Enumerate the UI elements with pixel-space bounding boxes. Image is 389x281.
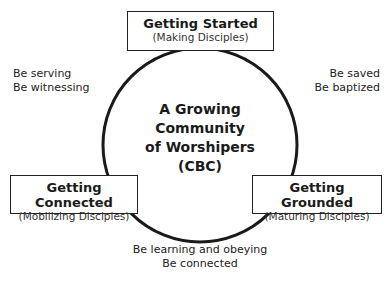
stage-title: Getting Grounded (253, 180, 381, 210)
center-line-1: A Growing Community (120, 100, 280, 138)
stage-title: Getting Connected (11, 180, 137, 210)
stage-title: Getting Started (128, 16, 273, 31)
center-line-3: (CBC) (120, 157, 280, 176)
note-bottom: Be learning and obeying Be connected (120, 243, 280, 271)
note-line: Be baptized (315, 81, 380, 95)
stage-getting-grounded: Getting Grounded (Maturing Disciples) (252, 175, 382, 214)
note-line: Be connected (120, 257, 280, 271)
note-line: Be serving (13, 67, 89, 81)
stage-subtitle: (Mobilizing Disciples) (11, 210, 137, 223)
stage-getting-started: Getting Started (Making Disciples) (127, 11, 274, 51)
note-top-right: Be saved Be baptized (315, 67, 380, 95)
stage-getting-connected: Getting Connected (Mobilizing Disciples) (10, 175, 138, 214)
note-top-left: Be serving Be witnessing (13, 67, 89, 95)
center-line-2: of Worshipers (120, 138, 280, 157)
note-line: Be witnessing (13, 81, 89, 95)
stage-subtitle: (Making Disciples) (128, 31, 273, 44)
stage-subtitle: (Maturing Disciples) (253, 210, 381, 223)
center-label: A Growing Community of Worshipers (CBC) (120, 100, 280, 176)
note-line: Be saved (315, 67, 380, 81)
note-line: Be learning and obeying (120, 243, 280, 257)
